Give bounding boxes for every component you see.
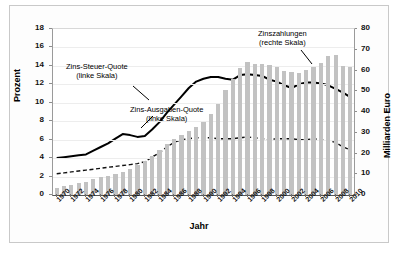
y-tick-left-16: 16 [24,42,44,50]
y-tick-left-2: 2 [24,172,44,180]
y-tick-right-40: 40 [361,107,383,115]
bar [319,63,323,195]
bar [172,139,176,195]
bar [282,71,286,196]
y-tick-right-50: 50 [361,86,383,94]
y-tick-right-20: 20 [361,149,383,157]
x-axis-label: Jahr [10,221,388,231]
bar [275,67,279,195]
bar [253,64,257,195]
y-tick-left-8: 8 [24,116,44,124]
y-tick-left-14: 14 [24,61,44,69]
y-tick-left-6: 6 [24,135,44,143]
chart-screenshot: Prozent Milliarden Euro Jahr 02468101214… [0,0,399,259]
bar [311,67,315,195]
bar [223,90,227,195]
y-tick-right-30: 30 [361,128,383,136]
annotation-zins-steuer-quote-text: Zins-Steuer-Quote [66,62,128,71]
y-tick-right-60: 60 [361,66,383,74]
bar [341,66,345,195]
annotation-zinszahlungen-sub: (rechte Skala) [258,38,307,47]
annotation-zins-steuer-quote-sub: (linke Skala) [66,71,128,80]
plot-area [52,28,355,196]
gridline [53,84,354,85]
y-tick-left-18: 18 [24,24,44,32]
y-tick-right-10: 10 [361,169,383,177]
gridline [53,47,354,48]
bar [304,70,308,195]
bar [231,79,235,195]
y-tick-right-70: 70 [361,45,383,53]
bar [209,114,213,195]
gridline [53,103,354,104]
y-tick-left-0: 0 [24,190,44,198]
annotation-zins-ausgaben-quote-sub: (linke Skala) [130,114,203,123]
bar [334,55,338,195]
bar [157,150,161,195]
y-tick-right-80: 80 [361,24,383,32]
bar [245,62,249,195]
bar [201,122,205,195]
bar [216,104,220,196]
bar [289,72,293,195]
chart-frame: Prozent Milliarden Euro Jahr 02468101214… [9,5,389,243]
bar [348,67,352,195]
annotation-zinszahlungen: Zinszahlungen (rechte Skala) [258,29,307,48]
bar [187,131,191,195]
y-axis-label-right: Milliarden Euro [382,93,392,158]
annotation-zins-ausgaben-quote: Zins-Ausgaben-Quote (linke Skala) [130,105,203,124]
y-tick-left-4: 4 [24,153,44,161]
y-axis-label-left: Prozent [12,69,22,102]
bar [194,127,198,195]
annotation-zins-steuer-quote: Zins-Steuer-Quote (linke Skala) [66,62,128,81]
bar [267,65,271,195]
bar [238,68,242,195]
bar [297,73,301,195]
annotation-zinszahlungen-text: Zinszahlungen [258,29,307,38]
y-tick-left-10: 10 [24,98,44,106]
bar [326,56,330,195]
bar [260,64,264,195]
y-tick-left-12: 12 [24,79,44,87]
annotation-zins-ausgaben-quote-text: Zins-Ausgaben-Quote [130,105,203,114]
